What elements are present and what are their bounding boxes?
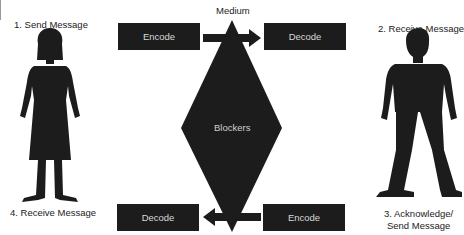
step-send-message: 1. Send Message xyxy=(14,19,88,30)
step-acknowledge: 3. Acknowledge/ Send Message xyxy=(384,208,453,232)
step-receive-message: 2. Receive Message xyxy=(378,23,464,34)
man-silhouette-icon xyxy=(376,28,462,197)
step-acknowledge-line1: 3. Acknowledge/ xyxy=(384,208,453,220)
step-acknowledge-line2: Send Message xyxy=(384,220,453,232)
bottom-encode-box: Encode xyxy=(263,204,345,231)
bottom-decode-box: Decode xyxy=(117,204,199,231)
top-decode-box: Decode xyxy=(264,23,346,50)
medium-label: Medium xyxy=(216,5,250,16)
step-receive-message-back: 4. Receive Message xyxy=(10,207,96,218)
blockers-label: Blockers xyxy=(214,122,250,133)
woman-silhouette-icon xyxy=(20,28,80,202)
top-encode-box: Encode xyxy=(118,23,200,50)
